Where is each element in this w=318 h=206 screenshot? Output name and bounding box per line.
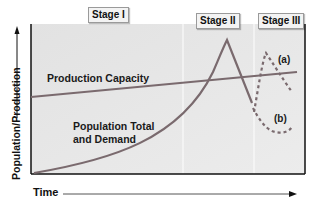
scenario-b-label: (b) xyxy=(274,113,287,124)
population-label-line1: Population Total xyxy=(73,120,154,132)
scenario-a-label: (a) xyxy=(278,54,290,65)
population-label-line2: and Demand xyxy=(73,133,136,145)
y-axis-arrowhead xyxy=(15,26,20,34)
diagram-graphics xyxy=(0,0,318,206)
x-axis-label: Time xyxy=(33,186,58,198)
production-capacity-label: Production Capacity xyxy=(47,72,149,84)
stage-ii-label: Stage II xyxy=(196,13,240,29)
x-axis-arrowhead xyxy=(289,191,297,197)
stage-i-label: Stage I xyxy=(88,7,129,23)
y-axis-label: Population/Production xyxy=(10,67,22,180)
stage-iii-label: Stage III xyxy=(258,13,304,29)
plot-area xyxy=(31,24,305,174)
diagram: Stage I Stage II Stage III Production Ca… xyxy=(0,0,318,206)
